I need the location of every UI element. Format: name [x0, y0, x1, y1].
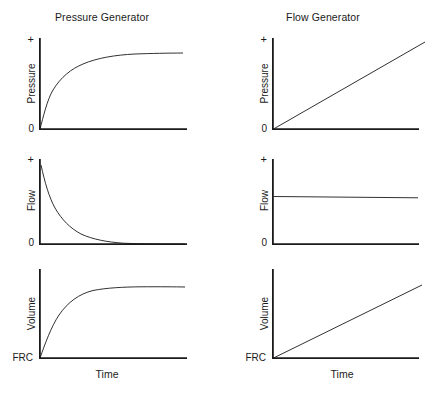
y-tick-bottom-flow-generator-flow: 0: [249, 237, 267, 248]
figure-root: Pressure Generator Flow Generator Pressu…: [0, 0, 437, 394]
curve-volume-rising: [40, 287, 185, 358]
y-tick-top-pressure-generator-pressure: +: [16, 33, 34, 45]
y-axis-label-pressure-generator-flow: Flow: [26, 177, 37, 225]
plot-area-pressure-generator-flow: [39, 159, 191, 249]
y-tick-top-flow-generator-flow: +: [249, 153, 267, 165]
y-axis-label-flow-generator-pressure: Pressure: [259, 50, 270, 118]
x-axis-label-pressure-generator-volume: Time: [96, 368, 119, 380]
y-axis-label-pressure-generator-volume: Volume: [26, 279, 37, 349]
plot-area-pressure-generator-pressure: [39, 38, 191, 134]
panel-pressure-generator-pressure: [39, 38, 191, 134]
panel-flow-generator-volume: [272, 269, 430, 364]
curve-flow-constant: [274, 197, 419, 198]
plot-area-pressure-generator-volume: [39, 269, 191, 364]
y-tick-top-pressure-generator-flow: +: [16, 153, 34, 165]
panel-pressure-generator-volume: [39, 269, 191, 364]
plot-area-flow-generator-volume: [272, 269, 430, 364]
y-tick-bottom-pressure-generator-flow: 0: [16, 237, 34, 248]
x-axis-label-flow-generator-volume: Time: [331, 368, 354, 380]
y-tick-bottom-pressure-generator-pressure: 0: [16, 123, 34, 134]
curve-pressure-rising: [40, 53, 183, 129]
y-tick-top-flow-generator-pressure: +: [249, 33, 267, 45]
y-axis-label-flow-generator-volume: Volume: [259, 279, 270, 349]
panel-flow-generator-flow: [272, 159, 430, 249]
curve-pressure-linear-ramp: [274, 42, 426, 129]
y-axis-label-pressure-generator-pressure: Pressure: [26, 50, 37, 118]
panel-flow-generator-pressure: [272, 38, 430, 134]
curve-flow-decay: [41, 165, 185, 244]
y-axis-label-flow-generator-flow: Flow: [259, 177, 270, 225]
column-title-flow-generator: Flow Generator: [286, 11, 360, 23]
plot-area-flow-generator-pressure: [272, 38, 430, 134]
column-title-pressure-generator: Pressure Generator: [55, 11, 149, 23]
curve-volume-linear-ramp: [274, 285, 423, 358]
plot-area-flow-generator-flow: [272, 159, 430, 249]
y-tick-bottom-flow-generator-volume: FRC: [238, 352, 266, 363]
panel-pressure-generator-flow: [39, 159, 191, 249]
y-tick-bottom-flow-generator-pressure: 0: [249, 123, 267, 134]
y-tick-bottom-pressure-generator-volume: FRC: [5, 352, 33, 363]
